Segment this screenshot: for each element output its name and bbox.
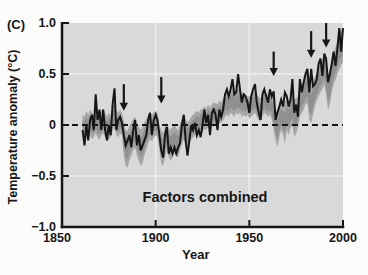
x-tick-label: 1850 (35, 232, 79, 245)
y-tick-label: 0 (16, 119, 56, 132)
x-tick-label: 1900 (134, 232, 178, 245)
x-tick-label: 2000 (321, 232, 365, 245)
y-tick-label: −0.5 (16, 170, 56, 183)
y-tick-label: 0.5 (16, 68, 56, 81)
x-tick-label: 1950 (227, 232, 271, 245)
y-tick-label: 1.0 (16, 17, 56, 30)
x-axis-title: Year (182, 248, 209, 261)
figure-temperature-anomaly-panel-c: (C) Temperature anomaly (°C) Year Factor… (0, 0, 368, 275)
annotation-factors-combined: Factors combined (143, 190, 268, 205)
